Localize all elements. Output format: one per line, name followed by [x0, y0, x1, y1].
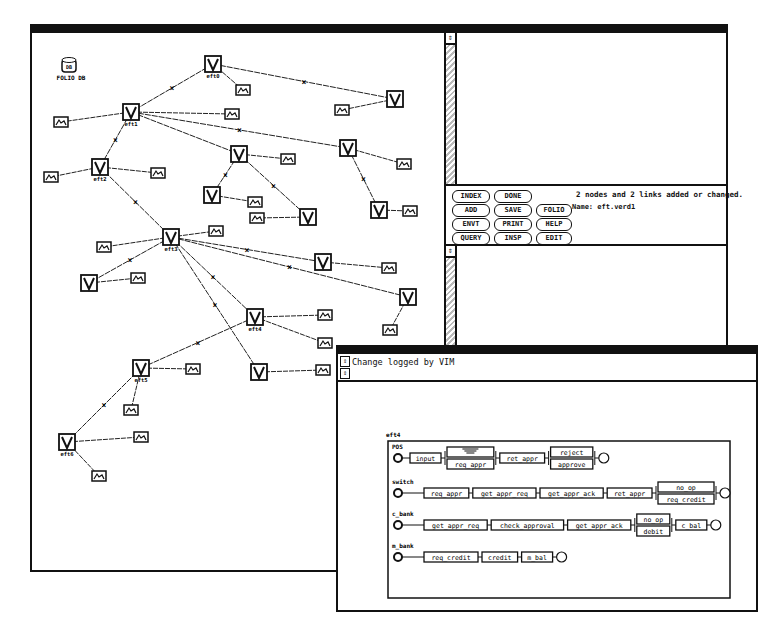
link-marker-icon: ×	[170, 84, 175, 93]
step[interactable]: get_appr_ack	[568, 520, 635, 530]
object-icon[interactable]	[335, 105, 349, 115]
log-scroll-down[interactable]: ⇕	[340, 368, 350, 379]
version-node-n_a[interactable]	[387, 91, 403, 107]
process-diagram[interactable]: eft4POSinputreq_apprret_apprrejectapprov…	[338, 382, 756, 610]
step[interactable]: ret_appr	[607, 488, 656, 498]
object-icon[interactable]	[383, 325, 397, 335]
object-icon[interactable]	[225, 109, 239, 119]
done-button[interactable]: DONE	[494, 190, 532, 203]
step[interactable]: ret_appr	[500, 453, 549, 463]
svg-text:req_credit: req_credit	[666, 496, 705, 504]
version-node-eft3[interactable]: eft3	[163, 229, 179, 252]
link-marker-icon: ×	[213, 301, 218, 310]
object-icon[interactable]	[397, 159, 411, 169]
print-button[interactable]: PRINT	[494, 218, 532, 231]
save-button[interactable]: SAVE	[494, 204, 532, 217]
step[interactable]: c_bal	[676, 520, 711, 530]
step[interactable]: m_bal	[522, 552, 557, 562]
browser-text-titlebar[interactable]	[446, 26, 726, 33]
object-icon[interactable]	[151, 168, 165, 178]
object-icon[interactable]	[250, 213, 264, 223]
svg-text:approve: approve	[558, 461, 585, 469]
object-icon[interactable]	[134, 432, 148, 442]
step[interactable]: inputreq_appr	[410, 447, 500, 469]
help-button[interactable]: HELP	[536, 218, 572, 231]
folio-button[interactable]: FOLIO	[536, 204, 572, 217]
version-node-n_d[interactable]	[204, 187, 220, 203]
index-button[interactable]: INDEX	[452, 190, 490, 203]
svg-text:req_appr: req_appr	[455, 461, 486, 469]
node-label: eft4	[248, 326, 262, 332]
add-button[interactable]: ADD	[452, 204, 490, 217]
graph-window-titlebar[interactable]	[32, 26, 448, 33]
link-marker-icon: ×	[102, 401, 107, 410]
step[interactable]: check_approval	[491, 520, 567, 530]
object-icon[interactable]	[54, 117, 68, 127]
object-icon[interactable]	[186, 364, 200, 374]
scrollbar[interactable]: ⇕	[446, 246, 457, 354]
version-node-n_i[interactable]	[400, 289, 416, 305]
link-marker-icon: ×	[245, 246, 250, 255]
step[interactable]: req_appr	[424, 488, 473, 498]
object-icon[interactable]	[44, 172, 58, 182]
database-icon[interactable]: DBFOLIO DB	[57, 58, 86, 82]
lane-label: c_bank	[392, 510, 414, 518]
step[interactable]: no_opdebit	[635, 514, 676, 536]
control-panel: INDEXDONEADDSAVEFOLIOENVTPRINTHELPQUERYI…	[444, 184, 728, 246]
step[interactable]: req_credit	[424, 552, 482, 562]
object-icon[interactable]	[382, 263, 396, 273]
object-icon[interactable]	[403, 206, 417, 216]
svg-text:ret_appr: ret_appr	[507, 455, 538, 463]
object-icon[interactable]	[236, 85, 250, 95]
start-node-icon	[394, 454, 402, 462]
start-node-icon	[394, 553, 402, 561]
object-icon[interactable]	[316, 365, 330, 375]
version-node-n_g[interactable]	[81, 275, 97, 291]
version-node-eft2[interactable]: eft2	[92, 159, 108, 182]
process-window-titlebar[interactable]	[338, 347, 756, 354]
envt-button[interactable]: ENVT	[452, 218, 490, 231]
object-icon[interactable]	[281, 154, 295, 164]
version-node-n_e[interactable]	[300, 209, 316, 225]
lane-label: switch	[392, 478, 414, 485]
version-node-n_c[interactable]	[340, 140, 356, 156]
version-node-eft4[interactable]: eft4	[247, 309, 263, 332]
version-node-n_j[interactable]	[251, 364, 267, 380]
object-icon[interactable]	[131, 273, 145, 283]
object-icon[interactable]	[318, 338, 332, 348]
version-node-n_f[interactable]	[371, 202, 387, 218]
version-link[interactable]	[131, 112, 239, 154]
node-label: eft0	[206, 73, 219, 79]
object-icon[interactable]	[124, 405, 138, 415]
step[interactable]: rejectapprove	[549, 447, 599, 469]
scroll-arrow-icon[interactable]: ⇕	[446, 246, 455, 258]
step[interactable]: get_appr_ack	[540, 488, 607, 498]
version-node-n_b[interactable]	[231, 146, 247, 162]
version-node-eft5[interactable]: eft5	[133, 360, 149, 383]
object-icon[interactable]	[97, 242, 111, 252]
svg-text:debit: debit	[644, 528, 664, 536]
svg-text:get_appr_req: get_appr_req	[432, 522, 479, 530]
version-node-eft0[interactable]: eft0	[205, 56, 221, 79]
step[interactable]: no_opreq_credit	[656, 482, 720, 504]
svg-text:ret_appr: ret_appr	[614, 490, 645, 498]
svg-text:credit: credit	[488, 554, 512, 562]
object-icon[interactable]	[318, 310, 332, 320]
node-label: eft2	[93, 176, 106, 182]
step[interactable]: credit	[482, 552, 522, 562]
lane-label: m_bank	[392, 542, 414, 550]
link-marker-icon: ×	[287, 263, 292, 272]
scrollbar[interactable]: ⇕	[446, 33, 457, 184]
version-node-n_h[interactable]	[315, 254, 331, 270]
svg-text:DB: DB	[66, 64, 72, 70]
object-icon[interactable]	[248, 197, 262, 207]
log-scroll-up[interactable]: ⇕	[340, 356, 350, 367]
scroll-arrow-icon[interactable]: ⇕	[446, 33, 455, 45]
step[interactable]: get_appr_req	[473, 488, 540, 498]
lane-m_bank: m_bankreq_creditcreditm_bal	[392, 542, 567, 562]
step[interactable]: get_appr_req	[424, 520, 491, 530]
version-node-eft6[interactable]: eft6	[59, 434, 75, 457]
object-icon[interactable]	[209, 226, 223, 236]
version-node-eft1[interactable]: eft1	[123, 104, 139, 127]
object-icon[interactable]	[92, 471, 106, 481]
